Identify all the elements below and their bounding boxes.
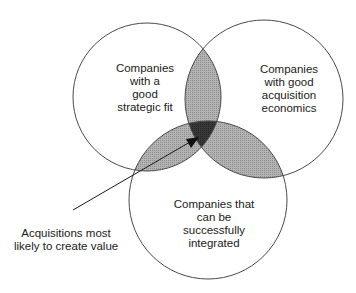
venn-diagram: Companies with a good strategic fit Comp… xyxy=(0,0,356,293)
callout-label: Acquisitions most likely to create value xyxy=(14,227,118,253)
label-strategic-fit: Companies with a good strategic fit xyxy=(104,62,186,114)
label-acquisition-economics: Companies with good acquisition economic… xyxy=(248,63,330,115)
label-integration: Companies that can be successfully integ… xyxy=(164,198,264,250)
